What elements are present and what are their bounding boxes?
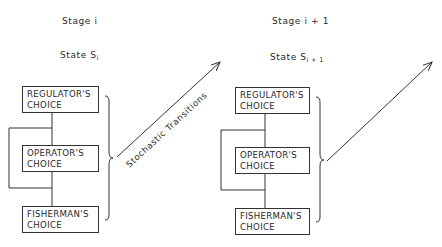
box-line1: FISHERMAN'S xyxy=(240,211,309,222)
box-line1: OPERATOR'S xyxy=(27,148,98,159)
curly-brace xyxy=(105,96,113,220)
box-line2: CHOICE xyxy=(27,100,98,111)
state-subscript: i + 1 xyxy=(307,56,324,64)
fisherman-choice-box: FISHERMAN'S CHOICE xyxy=(235,208,310,235)
box-line1: REGULATOR'S xyxy=(27,89,98,100)
box-line2: CHOICE xyxy=(240,222,309,233)
box-line2: CHOICE xyxy=(27,159,98,170)
state-text: State S xyxy=(60,50,97,60)
fisherman-choice-box: FISHERMAN'S CHOICE xyxy=(22,206,99,233)
box-line1: REGULATOR'S xyxy=(240,90,309,101)
box-line2: CHOICE xyxy=(240,101,309,112)
state-i-plus-1-label: State Si + 1 xyxy=(270,52,324,64)
operator-choice-box: OPERATOR'S CHOICE xyxy=(235,147,310,174)
curly-brace xyxy=(316,97,324,222)
state-subscript: i xyxy=(97,54,99,62)
operator-choice-box: OPERATOR'S CHOICE xyxy=(22,145,99,172)
next-transition-arrow xyxy=(327,62,432,161)
box-line2: CHOICE xyxy=(27,220,98,231)
regulator-choice-box: REGULATOR'S CHOICE xyxy=(235,87,310,114)
stage-i-plus-1-label: Stage i + 1 xyxy=(272,16,329,26)
state-text: State S xyxy=(270,52,307,62)
regulator-choice-box: REGULATOR'S CHOICE xyxy=(22,86,99,113)
box-line2: CHOICE xyxy=(240,161,309,172)
box-line1: OPERATOR'S xyxy=(240,150,309,161)
state-i-label: State Si xyxy=(60,50,99,62)
stochastic-transition-arrow xyxy=(117,62,220,157)
stage-i-plus-1-connectors xyxy=(221,62,432,222)
box-line1: FISHERMAN'S xyxy=(27,209,98,220)
stage-i-label: Stage i xyxy=(62,16,98,26)
